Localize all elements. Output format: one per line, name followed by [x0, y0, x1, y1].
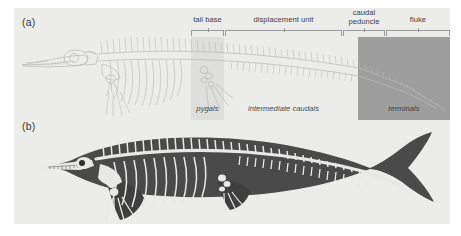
figure-root: (a) tail base displacement unit caudal p… [0, 0, 461, 236]
region-label-tail-base: tail base [191, 16, 224, 25]
figure-plate: (a) tail base displacement unit caudal p… [14, 8, 450, 224]
panel-b: (b) [14, 112, 450, 224]
bracket-fluke [386, 30, 450, 36]
region-label-caudal-peduncle: caudal peduncle [343, 9, 385, 26]
panel-label-a: (a) [22, 16, 35, 28]
region-label-displacement-unit: displacement unit [225, 16, 342, 25]
bracket-caudal-peduncle [343, 30, 385, 36]
bracket-displacement-unit [225, 30, 342, 36]
bracket-tail-base [191, 30, 224, 36]
panel-a: (a) tail base displacement unit caudal p… [14, 8, 450, 120]
region-label-fluke: fluke [386, 16, 450, 25]
body-silhouette-drawing [14, 112, 450, 224]
panel-label-b: (b) [22, 120, 35, 132]
